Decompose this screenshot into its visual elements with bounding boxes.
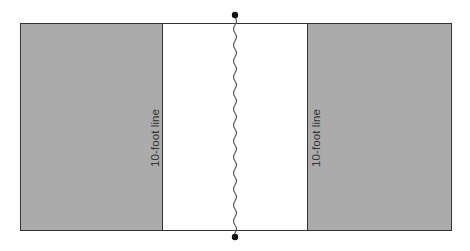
top-endpoint-dot-icon: [232, 12, 238, 18]
center-line-overlay: [0, 0, 470, 251]
wavy-center-line: [234, 17, 237, 237]
court-diagram: 10-foot line 10-foot line: [0, 0, 470, 251]
bottom-endpoint-dot-icon: [232, 234, 238, 240]
